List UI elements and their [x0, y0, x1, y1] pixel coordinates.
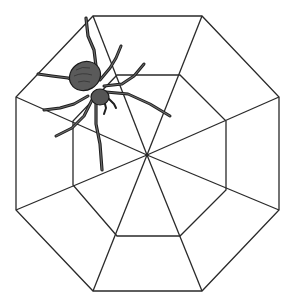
spider-web-illustration: [0, 0, 292, 305]
illustration-canvas: [0, 0, 292, 305]
web-hub: [145, 153, 148, 156]
spider-web: [16, 16, 279, 291]
web-spoke: [147, 155, 279, 210]
web-spoke: [16, 155, 147, 210]
spider-head: [91, 89, 109, 105]
web-spoke: [93, 155, 147, 291]
